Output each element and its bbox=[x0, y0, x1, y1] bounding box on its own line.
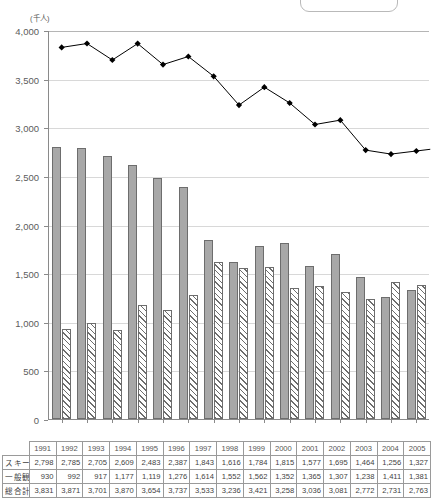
table-row: 総合計3,8313,8713,7013,8703,6543,7373,5333,… bbox=[3, 484, 431, 498]
y-axis-tick-label: 3,000 bbox=[15, 123, 39, 134]
y-axis-tick-mark bbox=[44, 274, 48, 275]
table-cell: 2,387 bbox=[163, 456, 190, 470]
table-cell: 3,036 bbox=[297, 484, 324, 498]
data-table: 1991199219931994199519961997199819992000… bbox=[2, 441, 431, 498]
total-line-marker bbox=[59, 44, 65, 50]
table-body: スキー2,7982,7852,7052,6092,4832,3871,8431,… bbox=[3, 456, 431, 498]
total-line-marker bbox=[413, 148, 419, 154]
table-column-header: 1995 bbox=[136, 442, 163, 456]
table-cell: 1,562 bbox=[243, 470, 270, 484]
table-cell: 2,763 bbox=[404, 484, 431, 498]
y-axis-tick-label: 1,000 bbox=[15, 317, 39, 328]
table-cell: 1,784 bbox=[243, 456, 270, 470]
table-row: スキー2,7982,7852,7052,6092,4832,3871,8431,… bbox=[3, 456, 431, 470]
table-cell: 992 bbox=[56, 470, 83, 484]
y-axis-tick-label: 2,000 bbox=[15, 220, 39, 231]
table-cell: 2,483 bbox=[136, 456, 163, 470]
table-row-label: 総合計 bbox=[3, 484, 30, 498]
table-cell: 1,411 bbox=[377, 470, 404, 484]
table-corner-cell bbox=[3, 442, 30, 456]
table-cell: 1,119 bbox=[136, 470, 163, 484]
table-header: 1991199219931994199519961997199819992000… bbox=[3, 442, 431, 456]
legend-box bbox=[300, 0, 398, 12]
y-axis-tick-label: 0 bbox=[34, 415, 39, 426]
y-axis-tick-mark bbox=[44, 420, 48, 421]
y-axis-tick-label: 4,000 bbox=[15, 26, 39, 37]
table-cell: 1,464 bbox=[350, 456, 377, 470]
table-cell: 1,695 bbox=[324, 456, 351, 470]
table-cell: 1,616 bbox=[217, 456, 244, 470]
table-cell: 1,365 bbox=[297, 470, 324, 484]
table-cell: 3,737 bbox=[163, 484, 190, 498]
table-cell: 1,843 bbox=[190, 456, 217, 470]
table-cell: 2,731 bbox=[377, 484, 404, 498]
table-column-header: 2004 bbox=[377, 442, 404, 456]
table-cell: 1,552 bbox=[217, 470, 244, 484]
y-axis-tick-mark bbox=[44, 323, 48, 324]
y-axis-tick-mark bbox=[44, 177, 48, 178]
y-axis-tick-mark bbox=[44, 226, 48, 227]
table-cell: 1,352 bbox=[270, 470, 297, 484]
x-axis-tick-mark bbox=[138, 419, 139, 423]
x-axis-tick-mark bbox=[163, 419, 164, 423]
table-row: 一般観光9309929171,1771,1191,2761,6141,5521,… bbox=[3, 470, 431, 484]
y-axis-tick-label: 3,500 bbox=[15, 74, 39, 85]
table-cell: 3,871 bbox=[56, 484, 83, 498]
x-axis-tick-mark bbox=[214, 419, 215, 423]
table-cell: 2,798 bbox=[29, 456, 56, 470]
x-axis-tick-mark bbox=[87, 419, 88, 423]
x-axis-tick-mark bbox=[416, 419, 417, 423]
table-row-label: 一般観光 bbox=[3, 470, 30, 484]
table-cell: 3,870 bbox=[110, 484, 137, 498]
table-column-header: 2000 bbox=[270, 442, 297, 456]
table-cell: 1,381 bbox=[404, 470, 431, 484]
table-column-header: 1997 bbox=[190, 442, 217, 456]
y-axis-tick-mark bbox=[44, 371, 48, 372]
table-column-header: 1999 bbox=[243, 442, 270, 456]
table-cell: 1,577 bbox=[297, 456, 324, 470]
total-line-marker bbox=[388, 151, 394, 157]
total-line-marker bbox=[84, 40, 90, 46]
table-column-header: 1991 bbox=[29, 442, 56, 456]
table-cell: 1,614 bbox=[190, 470, 217, 484]
x-axis-tick-mark bbox=[290, 419, 291, 423]
table-cell: 2,772 bbox=[350, 484, 377, 498]
x-axis-tick-mark bbox=[188, 419, 189, 423]
total-line-marker bbox=[109, 57, 115, 63]
table-cell: 3,081 bbox=[324, 484, 351, 498]
table-cell: 3,236 bbox=[217, 484, 244, 498]
table-column-header: 2003 bbox=[350, 442, 377, 456]
table-cell: 1,276 bbox=[163, 470, 190, 484]
table-cell: 2,785 bbox=[56, 456, 83, 470]
y-axis-tick-mark bbox=[44, 128, 48, 129]
table-row-label: スキー bbox=[3, 456, 30, 470]
table-header-row: 1991199219931994199519961997199819992000… bbox=[3, 442, 431, 456]
table-cell: 3,701 bbox=[83, 484, 110, 498]
table-column-header: 1998 bbox=[217, 442, 244, 456]
y-axis-tick-label: 2,500 bbox=[15, 171, 39, 182]
table-cell: 3,533 bbox=[190, 484, 217, 498]
table-cell: 1,238 bbox=[350, 470, 377, 484]
total-line-series bbox=[49, 31, 429, 419]
table-cell: 3,258 bbox=[270, 484, 297, 498]
table-column-header: 2002 bbox=[324, 442, 351, 456]
y-axis-tick-label: 1,500 bbox=[15, 269, 39, 280]
x-axis-tick-mark bbox=[264, 419, 265, 423]
x-axis-tick-mark bbox=[62, 419, 63, 423]
y-axis-unit-label: (千人) bbox=[30, 12, 50, 23]
table-cell: 1,177 bbox=[110, 470, 137, 484]
table-cell: 930 bbox=[29, 470, 56, 484]
y-axis-tick-mark bbox=[44, 80, 48, 81]
table-cell: 3,654 bbox=[136, 484, 163, 498]
x-axis-tick-mark bbox=[315, 419, 316, 423]
table-cell: 1,815 bbox=[270, 456, 297, 470]
table-column-header: 1994 bbox=[110, 442, 137, 456]
table-column-header: 1996 bbox=[163, 442, 190, 456]
y-axis-tick-mark bbox=[44, 31, 48, 32]
x-axis-tick-mark bbox=[366, 419, 367, 423]
table-column-header: 2005 bbox=[404, 442, 431, 456]
table-column-header: 1993 bbox=[83, 442, 110, 456]
total-line-marker bbox=[261, 84, 267, 90]
table-column-header: 2001 bbox=[297, 442, 324, 456]
table-cell: 2,705 bbox=[83, 456, 110, 470]
